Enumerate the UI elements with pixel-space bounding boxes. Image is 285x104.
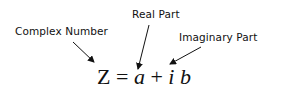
complex-number-diagram: Complex Number Real Part Imaginary Part … [0, 0, 285, 104]
real-part-arrow-icon [138, 25, 149, 69]
imaginary-part-arrow-icon [170, 47, 201, 64]
complex-number-arrow-icon [73, 42, 94, 62]
arrows [0, 0, 285, 104]
